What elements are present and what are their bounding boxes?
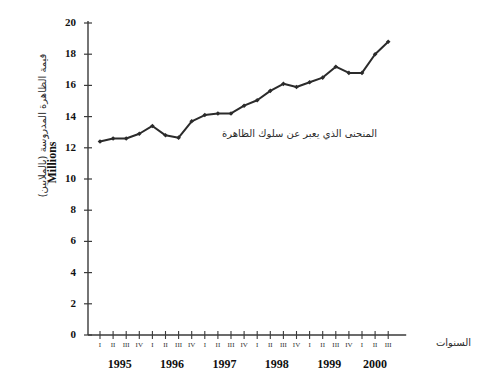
data-point-marker: [216, 111, 221, 116]
quarterly-phenomenon-line-chart: قيمة الظاهرة المدروسة (بالملايين) Millio…: [0, 0, 477, 392]
plot-area: [0, 0, 477, 392]
data-series-line: [100, 42, 388, 142]
data-point-marker: [98, 139, 103, 144]
data-point-marker: [111, 136, 116, 141]
